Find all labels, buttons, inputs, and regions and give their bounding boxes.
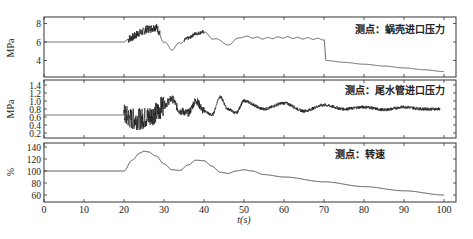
y-tick-label: 4: [36, 56, 41, 66]
y-tick-label: 120: [27, 155, 42, 165]
x-tick-label: 40: [199, 204, 209, 215]
x-tick-label: 60: [279, 204, 289, 215]
x-tick-label: 30: [159, 204, 169, 215]
x-tick-label: 10: [79, 204, 89, 215]
data-curves: [44, 24, 444, 195]
y-tick-label: 6: [36, 38, 41, 48]
series-line-2: [44, 96, 440, 130]
x-ticks: 0102030405060708090100: [42, 17, 452, 215]
x-tick-label: 90: [399, 204, 409, 215]
y-tick-label: 1.4: [29, 81, 41, 91]
panel-2-title: 测点：尾水管进口压力: [345, 84, 445, 96]
x-tick-label: 100: [437, 204, 452, 215]
x-tick-label: 80: [359, 204, 369, 215]
x-tick-label: 70: [319, 204, 329, 215]
x-tick-label: 0: [42, 204, 47, 215]
panel-1-ylabel: MPa: [5, 38, 16, 57]
y-tick-label: 8: [36, 19, 41, 29]
y-tick-label: 100: [27, 167, 42, 177]
y-tick-label: 80: [32, 179, 42, 189]
y-tick-label: 140: [27, 143, 42, 153]
x-axis-label: t(s): [237, 214, 251, 226]
figure: 0102030405060708090100 4680.20.40.60.81.…: [0, 0, 473, 239]
panel-2-ylabel: MPa: [5, 99, 16, 118]
panel-3-ylabel: %: [5, 168, 16, 176]
panel-3-frame: [44, 143, 456, 202]
panel-3-title: 测点：转速: [335, 148, 385, 160]
y-tick-label: 60: [32, 191, 42, 201]
panel-1-title: 测点：蜗壳进口压力: [355, 23, 445, 35]
x-tick-label: 20: [119, 204, 129, 215]
